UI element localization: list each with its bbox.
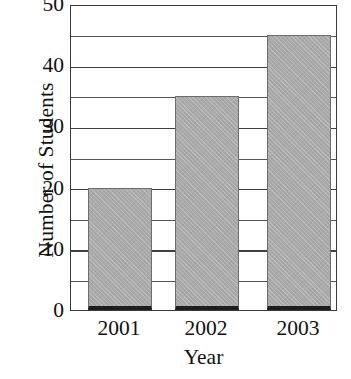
y-tick-label: 50 [20,0,64,16]
y-tick-label: 20 [20,178,64,200]
bar-2002 [175,96,239,310]
y-tick-label: 10 [20,239,64,261]
x-tick-label-2002: 2002 [161,318,251,340]
y-tick-label: 40 [20,55,64,77]
y-tick-label: 0 [20,300,64,322]
x-tick-label-2001: 2001 [74,318,164,340]
x-axis-title: Year [70,347,337,369]
bar-chart-figure: Number of Students 01020304050 200120022… [0,0,351,379]
y-axis-tick-labels: 01020304050 [14,0,64,379]
plot-area [70,5,337,311]
x-tick-label-2003: 2003 [253,318,343,340]
bar-2003 [267,35,331,310]
y-tick-label: 30 [20,116,64,138]
bar-2001 [88,188,152,310]
